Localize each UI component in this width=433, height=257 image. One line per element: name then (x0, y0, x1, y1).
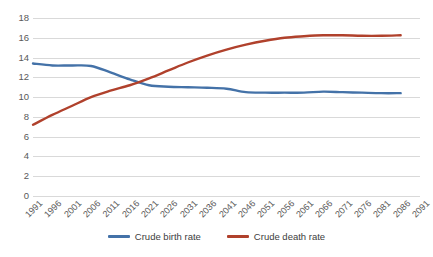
y-axis-tick-label: 2 (5, 171, 29, 181)
y-axis-tick-label: 4 (5, 151, 29, 161)
y-axis-tick-label: 16 (5, 33, 29, 43)
line-chart: 181614121086420 199119962001200620112016… (0, 0, 433, 257)
legend: Crude birth rateCrude death rate (0, 232, 433, 242)
x-axis: 1991199620012006201120162021202620312036… (33, 196, 420, 236)
legend-item[interactable]: Crude birth rate (108, 232, 201, 242)
legend-label: Crude death rate (254, 232, 325, 242)
y-axis-tick-label: 6 (5, 132, 29, 142)
y-axis-tick-label: 8 (5, 112, 29, 122)
legend-label: Crude birth rate (135, 232, 201, 242)
legend-item[interactable]: Crude death rate (227, 232, 325, 242)
series-line-crude-birth-rate (33, 63, 401, 93)
y-axis-tick-label: 18 (5, 13, 29, 23)
y-axis-tick-label: 14 (5, 53, 29, 63)
y-axis: 181614121086420 (3, 18, 29, 196)
y-axis-tick-label: 12 (5, 72, 29, 82)
y-axis-tick-label: 0 (5, 191, 29, 201)
series-line-crude-death-rate (33, 35, 401, 125)
y-axis-tick-label: 10 (5, 92, 29, 102)
series-layer (33, 18, 420, 196)
plot-area (33, 18, 420, 196)
legend-swatch-icon (108, 235, 130, 238)
legend-swatch-icon (227, 235, 249, 238)
